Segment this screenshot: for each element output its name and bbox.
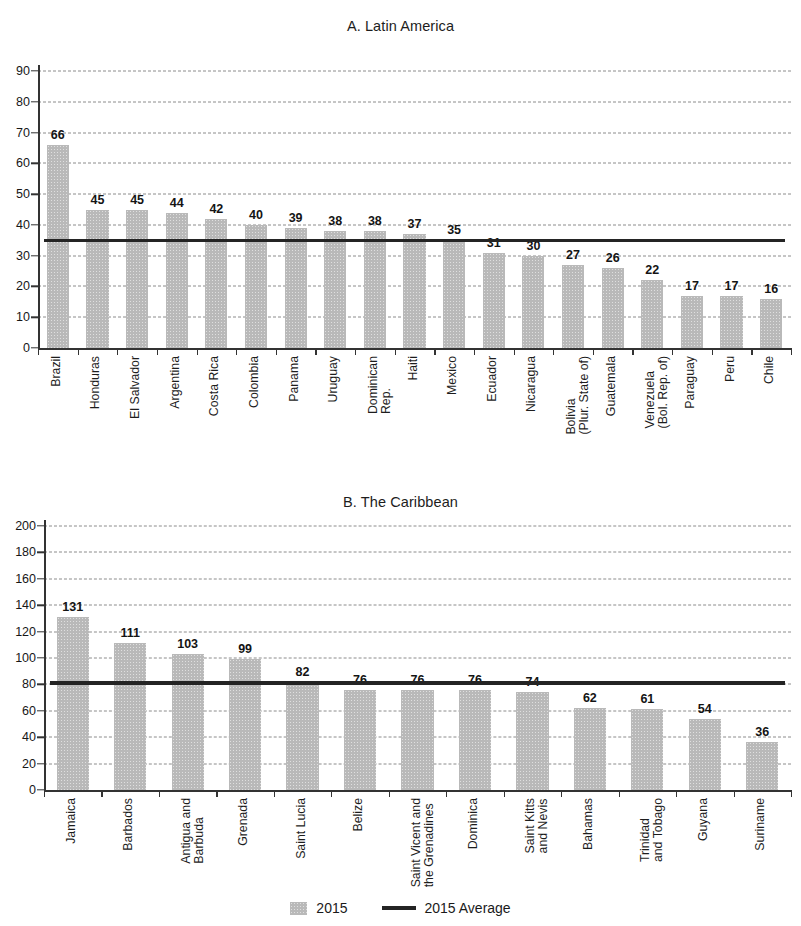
x-tick-mark <box>44 790 45 797</box>
bar-value-label: 38 <box>328 214 342 228</box>
y-tick-mark <box>37 525 44 526</box>
x-axis-category-label: Colombia <box>248 356 261 408</box>
average-line <box>44 239 785 242</box>
bar <box>285 228 307 348</box>
y-tick-mark <box>37 763 44 764</box>
x-tick-mark <box>197 348 198 355</box>
x-axis-category-label: Barbados <box>122 798 135 851</box>
x-axis-category-label-line: Mexico <box>446 356 459 395</box>
x-tick-mark <box>751 348 752 355</box>
bar <box>344 690 376 790</box>
panel-a-title: A. Latin America <box>0 18 801 34</box>
bar <box>57 617 89 790</box>
x-tick-mark <box>157 348 158 355</box>
bar <box>574 708 606 790</box>
bar-value-label: 82 <box>296 665 310 679</box>
x-axis-category-label: DominicanRep. <box>367 356 394 414</box>
bar <box>126 210 148 349</box>
gridline <box>44 631 791 632</box>
bar-value-label: 45 <box>130 193 144 207</box>
x-axis-category-label-line: the Grenadines <box>423 798 436 887</box>
y-axis-tick-label: 140 <box>0 598 36 612</box>
y-axis-tick-label: 120 <box>0 625 36 639</box>
bar-value-label: 44 <box>170 196 184 210</box>
x-axis-category-label: Suriname <box>754 798 767 851</box>
x-axis-category-label-line: Ecuador <box>486 356 499 402</box>
x-tick-mark <box>274 790 275 797</box>
x-axis-category-label-line: Chile <box>763 356 776 384</box>
bar <box>562 265 584 348</box>
x-axis-category-label-line: Brazil <box>50 356 63 387</box>
x-axis-category-label: Saint Kittsand Nevis <box>524 798 551 853</box>
x-axis-category-label-line: Haiti <box>407 356 420 381</box>
x-tick-mark <box>101 790 102 797</box>
y-tick-mark <box>31 70 38 71</box>
y-tick-mark <box>37 789 44 790</box>
gridline <box>44 526 791 527</box>
y-axis-tick-label: 20 <box>0 279 30 293</box>
x-tick-mark <box>331 790 332 797</box>
y-axis-tick-label: 70 <box>0 126 30 140</box>
bar-value-label: 38 <box>368 214 382 228</box>
x-tick-mark <box>216 790 217 797</box>
y-tick-mark <box>31 101 38 102</box>
x-axis-category-label: Saint Lucia <box>295 798 308 859</box>
x-axis-category-label: Uruguay <box>327 356 340 402</box>
x-axis-category-label-line: Rep. <box>380 356 393 414</box>
x-axis-category-label-line: and Tobago <box>653 798 666 862</box>
x-axis-category-label: Nicaragua <box>525 356 538 412</box>
y-axis-tick-label: 60 <box>0 704 36 718</box>
bar-value-label: 27 <box>566 248 580 262</box>
x-tick-mark <box>672 348 673 355</box>
legend-item-2015: 2015 <box>290 900 347 916</box>
y-axis-tick-label: 90 <box>0 64 30 78</box>
x-tick-mark <box>504 790 505 797</box>
bar <box>483 253 505 348</box>
average-line <box>50 681 785 684</box>
x-axis-line <box>38 348 791 350</box>
bar-value-label: 111 <box>120 626 139 640</box>
x-axis-category-label-line: Dominican <box>367 356 380 414</box>
bar <box>229 659 261 790</box>
y-tick-mark <box>37 552 44 553</box>
bar <box>172 654 204 790</box>
x-axis-category-label-line: Saint Vicent and <box>410 798 423 887</box>
bar <box>631 709 663 790</box>
chart-panel-a: 010203040506070809066Brazil45Honduras45E… <box>0 60 801 470</box>
line-swatch-icon <box>382 906 416 910</box>
x-axis-category-label-line: Grenada <box>237 798 250 846</box>
x-axis-category-label-line: Bolivia <box>565 356 578 435</box>
gridline <box>38 163 791 164</box>
bar <box>47 145 69 348</box>
x-axis-category-label-line: Belize <box>352 798 365 832</box>
x-axis-line <box>44 790 791 792</box>
x-axis-category-label: Dominica <box>467 798 480 849</box>
y-axis-tick-label: 0 <box>0 783 36 797</box>
x-axis-category-label: Honduras <box>89 356 102 409</box>
y-axis-tick-label: 180 <box>0 545 36 559</box>
bar-value-label: 37 <box>408 217 422 231</box>
x-tick-mark <box>632 348 633 355</box>
x-tick-mark <box>474 348 475 355</box>
x-tick-mark <box>676 790 677 797</box>
gridline <box>38 132 791 133</box>
x-tick-mark <box>117 348 118 355</box>
x-tick-mark <box>38 348 39 355</box>
x-axis-category-label-line: Argentina <box>169 356 182 409</box>
y-tick-mark <box>31 224 38 225</box>
x-tick-mark <box>593 348 594 355</box>
bar-value-label: 39 <box>289 211 303 225</box>
x-axis-category-label-line: Colombia <box>248 356 261 408</box>
y-tick-mark <box>37 710 44 711</box>
y-axis-tick-label: 10 <box>0 310 30 324</box>
y-axis-line <box>44 520 46 790</box>
bar <box>689 719 721 790</box>
bar-value-label: 42 <box>209 202 223 216</box>
x-tick-mark <box>389 790 390 797</box>
bar <box>516 692 548 790</box>
x-axis-category-label-line: Uruguay <box>327 356 340 402</box>
bar-value-label: 17 <box>725 279 739 293</box>
x-axis-category-label: Argentina <box>169 356 182 409</box>
gridline <box>44 552 791 553</box>
y-tick-mark <box>37 578 44 579</box>
